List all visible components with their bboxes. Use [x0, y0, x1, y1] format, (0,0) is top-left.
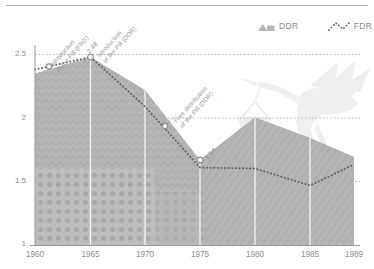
marker-pill-ddr [88, 54, 94, 60]
x-tick-1975: 1975 [180, 250, 220, 259]
x-tick-1980: 1980 [235, 250, 275, 259]
legend-item-fdr[interactable]: FDR [328, 21, 373, 31]
fertility-rate-chart: 2.5 2 1.5 1 1960 1965 1970 1975 1980 198… [0, 0, 374, 269]
legend-label-fdr: FDR [354, 21, 373, 31]
dotted-line-swatch-icon [328, 21, 350, 31]
legend-item-ddr[interactable]: DDR [258, 21, 299, 31]
area-swatch-icon [258, 21, 275, 31]
x-tick-1960: 1960 [15, 250, 55, 259]
y-tick-2: 2 [4, 113, 26, 122]
marker-free-dist [162, 123, 167, 128]
marker-1975-low [197, 157, 203, 163]
x-tick-1985: 1985 [290, 250, 330, 259]
x-tick-1989: 1989 [334, 250, 374, 259]
x-tick-1970: 1970 [125, 250, 165, 259]
legend: DDR FDR [258, 21, 372, 31]
y-tick-1-5: 1.5 [4, 176, 26, 185]
y-tick-2-5: 2.5 [4, 49, 26, 58]
plot-area [0, 0, 374, 269]
y-tick-1: 1 [4, 239, 26, 248]
x-tick-1965: 1965 [71, 250, 111, 259]
legend-label-ddr: DDR [279, 21, 299, 31]
